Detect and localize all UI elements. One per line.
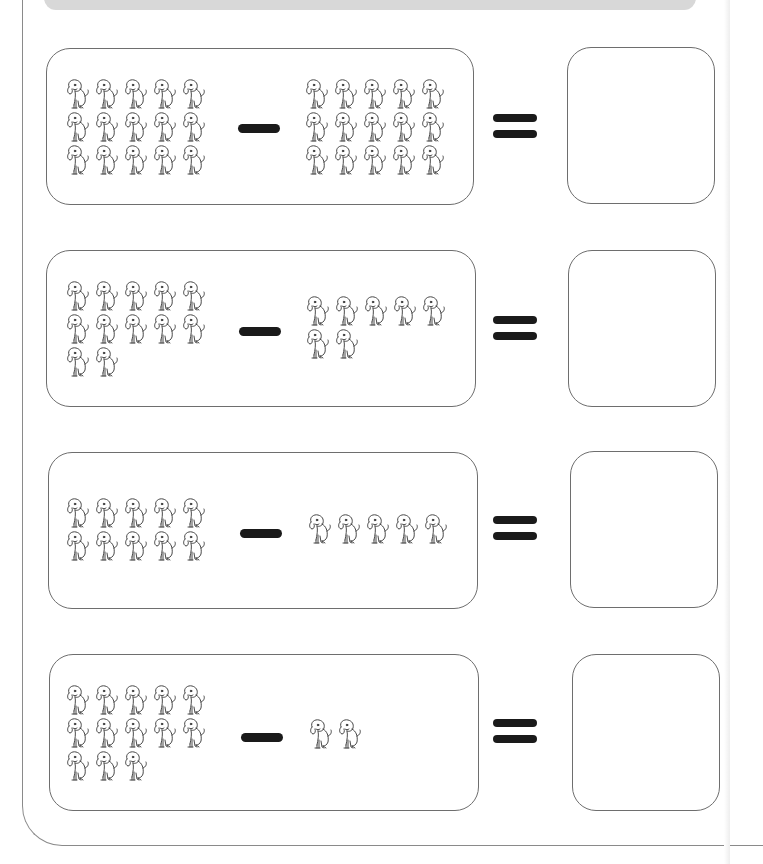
dog-icon xyxy=(306,513,335,546)
answer-box[interactable] xyxy=(568,250,716,407)
equals-bar xyxy=(493,532,537,540)
dog-icon xyxy=(151,280,180,313)
dog-icon xyxy=(151,313,180,346)
dog-icon xyxy=(335,513,364,546)
dog-icon xyxy=(422,513,451,546)
dog-icon xyxy=(419,78,448,111)
dog-icon xyxy=(180,78,209,111)
dog-icon xyxy=(64,346,93,379)
dog-icon xyxy=(303,78,332,111)
dog-icon xyxy=(93,684,122,717)
dog-icon xyxy=(362,295,391,328)
dog-icon xyxy=(64,750,93,783)
minus-sign xyxy=(238,124,280,133)
dog-icon xyxy=(122,530,151,563)
dog-icon xyxy=(93,497,122,530)
dog-icon xyxy=(180,280,209,313)
dog-icon xyxy=(303,111,332,144)
dog-icon xyxy=(390,78,419,111)
dog-icon xyxy=(93,313,122,346)
page-edge-shadow xyxy=(724,0,730,864)
dog-icon xyxy=(419,111,448,144)
dog-icon xyxy=(361,111,390,144)
dog-icon xyxy=(336,718,365,751)
minuend-dog-group xyxy=(64,684,209,783)
dog-icon xyxy=(93,144,122,177)
dog-icon xyxy=(64,111,93,144)
dog-icon xyxy=(307,718,336,751)
dog-icon xyxy=(364,513,393,546)
dog-icon xyxy=(122,717,151,750)
minuend-dog-group xyxy=(64,78,209,177)
dog-icon xyxy=(151,497,180,530)
dog-icon xyxy=(420,295,449,328)
dog-icon xyxy=(122,78,151,111)
dog-icon xyxy=(180,497,209,530)
dog-icon xyxy=(151,78,180,111)
dog-icon xyxy=(151,717,180,750)
subtrahend-dog-group xyxy=(304,295,449,361)
equals-sign xyxy=(493,316,537,340)
dog-icon xyxy=(180,530,209,563)
dog-icon xyxy=(64,497,93,530)
dog-icon xyxy=(93,346,122,379)
dog-icon xyxy=(151,111,180,144)
dog-icon xyxy=(393,513,422,546)
dog-icon xyxy=(93,280,122,313)
minus-sign xyxy=(240,529,282,538)
answer-box[interactable] xyxy=(572,654,720,811)
dog-icon xyxy=(122,280,151,313)
answer-box[interactable] xyxy=(567,47,715,204)
dog-icon xyxy=(64,78,93,111)
dog-icon xyxy=(332,78,361,111)
dog-icon xyxy=(390,144,419,177)
dog-icon xyxy=(332,144,361,177)
dog-icon xyxy=(122,497,151,530)
minuend-dog-group xyxy=(64,280,209,379)
answer-box[interactable] xyxy=(570,451,718,608)
dog-icon xyxy=(122,313,151,346)
minus-sign xyxy=(239,327,281,336)
subtrahend-dog-group xyxy=(303,78,448,177)
dog-icon xyxy=(361,78,390,111)
equals-bar xyxy=(493,332,537,340)
minuend-dog-group xyxy=(64,497,209,563)
dog-icon xyxy=(93,750,122,783)
equals-bar xyxy=(493,516,537,524)
dog-icon xyxy=(390,111,419,144)
dog-icon xyxy=(151,684,180,717)
equals-bar xyxy=(493,130,537,138)
dog-icon xyxy=(332,111,361,144)
dog-icon xyxy=(303,144,332,177)
dog-icon xyxy=(122,684,151,717)
dog-icon xyxy=(64,280,93,313)
dog-icon xyxy=(64,313,93,346)
dog-icon xyxy=(180,717,209,750)
dog-icon xyxy=(93,717,122,750)
dog-icon xyxy=(151,144,180,177)
dog-icon xyxy=(64,717,93,750)
dog-icon xyxy=(304,295,333,328)
minus-sign xyxy=(241,733,283,742)
dog-icon xyxy=(180,144,209,177)
equals-sign xyxy=(493,719,537,743)
subtrahend-dog-group xyxy=(306,513,451,546)
dog-icon xyxy=(151,530,180,563)
dog-icon xyxy=(64,684,93,717)
dog-icon xyxy=(361,144,390,177)
dog-icon xyxy=(333,295,362,328)
equals-sign xyxy=(493,114,537,138)
equals-bar xyxy=(493,114,537,122)
dog-icon xyxy=(93,78,122,111)
equals-sign xyxy=(493,516,537,540)
dog-icon xyxy=(180,111,209,144)
subtrahend-dog-group xyxy=(307,718,452,751)
dog-icon xyxy=(391,295,420,328)
dog-icon xyxy=(122,750,151,783)
dog-icon xyxy=(122,111,151,144)
dog-icon xyxy=(93,530,122,563)
dog-icon xyxy=(304,328,333,361)
dog-icon xyxy=(333,328,362,361)
equals-bar xyxy=(493,735,537,743)
dog-icon xyxy=(122,144,151,177)
